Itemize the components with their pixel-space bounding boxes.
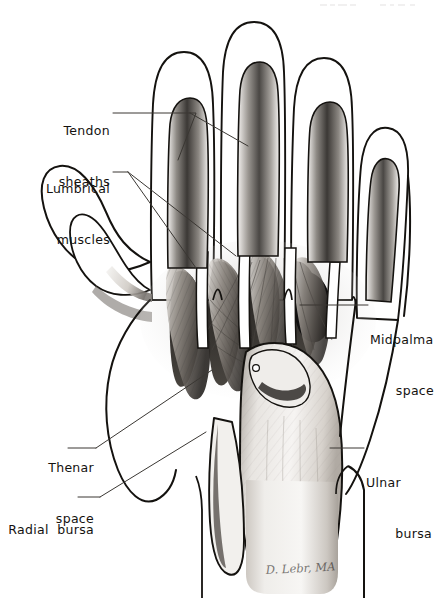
label-ulnar-bursa: Ulnar bursa [366, 440, 432, 576]
label-thenar-space-line1: Thenar [2, 459, 94, 476]
label-lumbrical-muscles-line2: muscles [6, 231, 110, 248]
label-midpalmar-space-line2: space [370, 382, 434, 399]
label-radial-bursa: Radial bursa [2, 487, 94, 572]
scan-artifact [318, 2, 422, 10]
anatomy-figure: D. Lebr, MA Tendon sheaths Lumbrical mus… [0, 0, 434, 599]
label-ulnar-bursa-line2: bursa [366, 525, 432, 542]
label-ulnar-bursa-line1: Ulnar [366, 474, 432, 491]
label-tendon-sheaths-line1: Tendon [6, 122, 110, 139]
label-lumbrical-muscles-line1: Lumbrical [6, 180, 110, 197]
label-radial-bursa-line1: Radial bursa [2, 521, 94, 538]
label-midpalmar-space: Midpalmar space [370, 297, 434, 433]
label-lumbrical-muscles: Lumbrical muscles [6, 146, 110, 282]
label-midpalmar-space-line1: Midpalmar [370, 331, 434, 348]
